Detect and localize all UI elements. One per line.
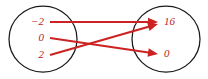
arrow-head: [147, 48, 158, 57]
codomain-element-label: 16: [164, 15, 176, 27]
arrow-head: [147, 23, 158, 31]
arrow-0-to-0: [50, 38, 158, 57]
domain-element-label: 0: [39, 31, 45, 43]
domain-element-label: 2: [39, 48, 45, 60]
mapping-diagram-canvas: −2 0 2 16 0: [0, 0, 208, 79]
arrow-2-to-16: [50, 23, 158, 55]
domain-element-label: −2: [31, 15, 44, 27]
mapping-diagram: −2 0 2 16 0: [0, 0, 208, 79]
arrow-neg2-to-16: [50, 18, 158, 27]
codomain-element-label: 0: [164, 47, 170, 59]
